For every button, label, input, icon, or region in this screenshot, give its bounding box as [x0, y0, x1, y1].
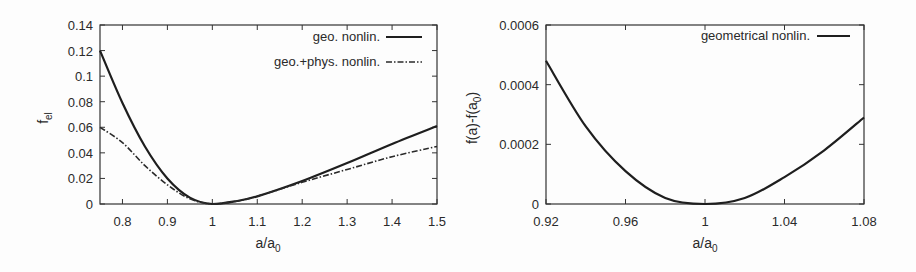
y-tick-label: 0.06 [68, 120, 93, 135]
x-tick-label: 1.2 [293, 214, 311, 229]
y-tick-label: 0.1 [75, 69, 93, 84]
x-tick-label: 1.3 [338, 214, 356, 229]
right-x-axis-label: a/a0 [692, 235, 717, 254]
y-tick-label: 0 [532, 197, 539, 212]
left-curves [100, 51, 437, 204]
x-tick-label: 0.9 [158, 214, 176, 229]
legend-label-geometrical-nonlin: geometrical nonlin. [701, 28, 810, 43]
y-tick-label: 0 [86, 197, 93, 212]
y-tick-label: 0.0002 [499, 137, 539, 152]
y-tick-label: 0.0004 [499, 78, 539, 93]
plot-frame-right [546, 25, 864, 204]
x-tick-label: 1 [209, 214, 216, 229]
right-legend: geometrical nonlin. [701, 28, 850, 43]
chart-left: 0.80.911.11.21.31.41.500.020.040.060.080… [35, 18, 446, 254]
right-curves [546, 61, 864, 204]
series-geo-nonlin [100, 51, 437, 204]
left-y-axis-label: fel [35, 112, 54, 124]
legend-label-geo-nonlin: geo. nonlin. [313, 29, 380, 44]
x-tick-label: 1.04 [772, 214, 797, 229]
x-tick-label: 1.1 [248, 214, 266, 229]
y-tick-label: 0.04 [68, 146, 93, 161]
plot-frame-left [100, 25, 437, 204]
left-legend: geo. nonlin. geo.+phys. nonlin. [274, 29, 422, 69]
series-geometrical-nonlin [546, 61, 864, 204]
x-tick-label: 0.8 [113, 214, 131, 229]
y-tick-label: 0.02 [68, 171, 93, 186]
x-tick-label: 1.4 [383, 214, 401, 229]
right-ticks: 0.920.9611.041.0800.00020.00040.0006 [499, 18, 876, 229]
legend-label-geo-phys-nonlin: geo.+phys. nonlin. [274, 54, 380, 69]
y-tick-label: 0.08 [68, 95, 93, 110]
left-x-axis-label: a/a0 [255, 235, 280, 254]
y-tick-label: 0.14 [68, 18, 93, 33]
series-geo-phys-nonlin [100, 127, 437, 204]
x-tick-label: 0.96 [613, 214, 638, 229]
y-tick-label: 0.0006 [499, 18, 539, 33]
y-tick-label: 0.12 [68, 44, 93, 59]
x-tick-label: 0.92 [533, 214, 558, 229]
chart-right: 0.920.9611.041.0800.00020.00040.0006 a/a… [464, 18, 877, 254]
right-y-axis-label: f(a)-f(a0) [464, 92, 483, 144]
x-tick-label: 1.5 [428, 214, 446, 229]
x-tick-label: 1 [701, 214, 708, 229]
figure: 0.80.911.11.21.31.41.500.020.040.060.080… [0, 0, 916, 272]
x-tick-label: 1.08 [851, 214, 876, 229]
